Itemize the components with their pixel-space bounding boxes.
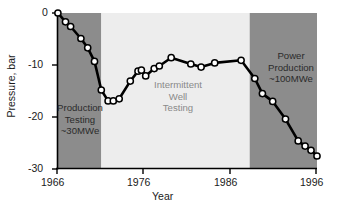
x-axis-ticks — [57, 169, 316, 174]
xtick-label-1986: 1986 — [214, 176, 237, 188]
annotation-production-testing-line3: ~30MWe — [56, 125, 104, 137]
annotation-power-production: Power Production ~100MWe — [260, 50, 322, 85]
annotation-intermittent-well-testing-line2: Well — [143, 91, 213, 103]
annotation-power-production-line2: Production — [260, 62, 322, 74]
ytick-label-m30: -30 — [28, 162, 43, 174]
xtick-label-1976: 1976 — [127, 176, 150, 188]
ytick-label-m10: -10 — [28, 58, 43, 70]
ytick-label-m20: -20 — [28, 110, 43, 122]
xtick-label-1966: 1966 — [41, 176, 64, 188]
y-axis-title: Pressure, bar — [5, 54, 17, 118]
annotation-production-testing-line1: Production — [56, 102, 104, 114]
annotation-intermittent-well-testing: Intermittent Well Testing — [143, 79, 213, 114]
y-axis-ticks — [52, 13, 57, 169]
annotation-power-production-line1: Power — [260, 50, 322, 62]
annotation-intermittent-well-testing-line3: Testing — [143, 102, 213, 114]
annotation-production-testing: Production Testing ~30MWe — [56, 102, 104, 137]
x-axis-title: Year — [152, 190, 173, 202]
annotation-production-testing-line2: Testing — [56, 114, 104, 126]
annotation-intermittent-well-testing-line1: Intermittent — [143, 79, 213, 91]
annotation-power-production-line3: ~100MWe — [260, 73, 322, 85]
xtick-label-1996: 1996 — [300, 176, 323, 188]
ytick-label-0: 0 — [42, 6, 48, 18]
chart-figure: 0 -10 -20 -30 1966 1976 1986 1996 Pressu… — [0, 0, 349, 208]
